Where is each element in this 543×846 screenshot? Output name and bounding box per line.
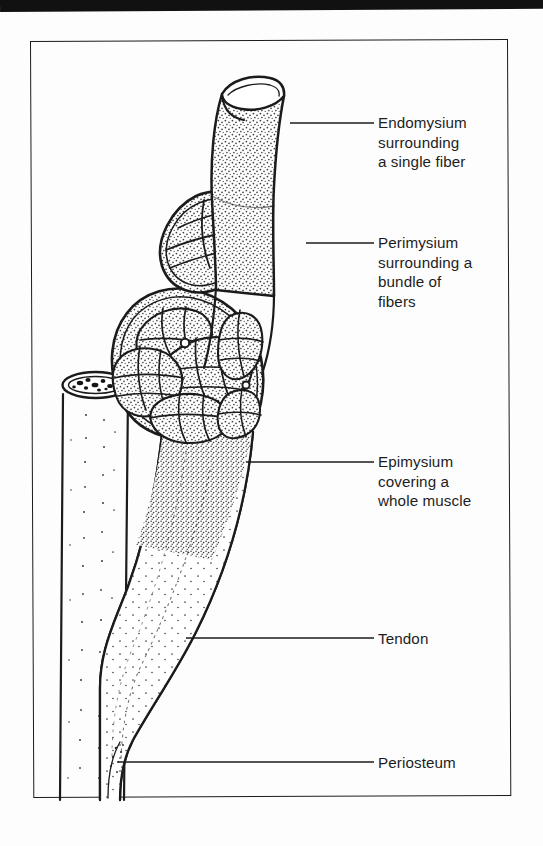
label-endomysium: Endomysium surrounding a single fiber <box>378 113 467 172</box>
muscle-belly-and-tendon <box>100 424 253 800</box>
label-perimysium: Perimysium surrounding a bundle of fiber… <box>378 233 472 311</box>
label-tendon: Tendon <box>378 629 428 649</box>
single-muscle-fiber <box>211 77 284 296</box>
label-epimysium: Epimysium covering a whole muscle <box>378 452 471 511</box>
label-periosteum: Periosteum <box>378 753 456 773</box>
